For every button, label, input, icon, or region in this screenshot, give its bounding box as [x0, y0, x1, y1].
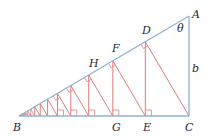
construction-lines — [20, 42, 189, 116]
label-d: D — [141, 24, 151, 37]
label-h: H — [88, 57, 99, 70]
label-b: b — [192, 62, 199, 75]
label-g: G — [112, 121, 121, 134]
label-e: E — [142, 121, 151, 134]
label-b-vertex: B — [12, 121, 21, 134]
right-angle-markers — [53, 44, 151, 116]
label-a: A — [191, 8, 200, 21]
label-f: F — [111, 42, 120, 55]
label-theta: θ — [177, 22, 184, 35]
triangle-diagram: A θ b D F H B G E C — [0, 0, 210, 140]
label-c: C — [185, 121, 194, 134]
